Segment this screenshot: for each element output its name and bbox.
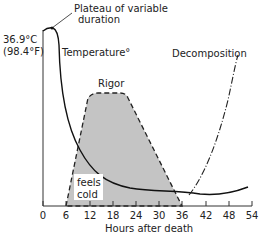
decomposition-label: Decomposition <box>172 48 247 59</box>
rigor-label: Rigor <box>98 78 124 89</box>
temp-fahrenheit-label: (98.4°F) <box>3 46 44 57</box>
chart-canvas <box>0 0 263 238</box>
x-tick-label: 30 <box>153 210 166 221</box>
x-tick-label: 6 <box>63 210 69 221</box>
feels-label: feels <box>77 177 101 188</box>
plateau-pointer <box>52 13 72 28</box>
decomposition-curve <box>189 55 238 195</box>
peak-marker <box>51 27 54 30</box>
x-tick-label: 36 <box>176 210 189 221</box>
temperature-label: Temperature° <box>62 47 130 58</box>
temp-celsius-label: 36.9°C <box>3 34 37 45</box>
cold-label: cold <box>77 189 98 200</box>
x-tick-label: 18 <box>107 210 120 221</box>
x-tick-label: 42 <box>200 210 213 221</box>
plateau-label-line2: duration <box>78 14 120 25</box>
x-tick-label: 54 <box>246 210 259 221</box>
x-tick-label: 24 <box>130 210 143 221</box>
x-axis-title: Hours after death <box>105 223 193 234</box>
x-tick-label: 12 <box>84 210 97 221</box>
plateau-label-line1: Plateau of variable <box>74 3 168 14</box>
x-tick-label: 48 <box>223 210 236 221</box>
x-tick-label: 0 <box>40 210 46 221</box>
